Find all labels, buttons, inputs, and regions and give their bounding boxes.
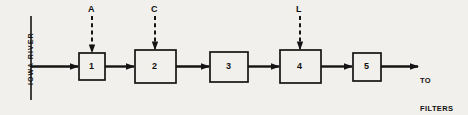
- output-label-line1: TO: [420, 76, 454, 85]
- feed-label-l: L: [296, 5, 302, 14]
- unit-label-4: 4: [297, 62, 302, 71]
- flow-diagram-canvas: [0, 0, 468, 115]
- output-label-line2: FILTERS: [420, 104, 454, 113]
- process-flow-diagram: IOWA RIVER A C L 1 2 3 4 5 TO FILTERS: [0, 0, 468, 115]
- feed-label-a: A: [88, 5, 95, 14]
- unit-label-5: 5: [364, 62, 369, 71]
- river-label: IOWA RIVER: [27, 32, 34, 85]
- feed-label-c: C: [151, 5, 158, 14]
- unit-label-3: 3: [226, 62, 231, 71]
- unit-label-1: 1: [89, 62, 94, 71]
- output-label: TO FILTERS: [420, 57, 454, 115]
- unit-label-2: 2: [152, 62, 157, 71]
